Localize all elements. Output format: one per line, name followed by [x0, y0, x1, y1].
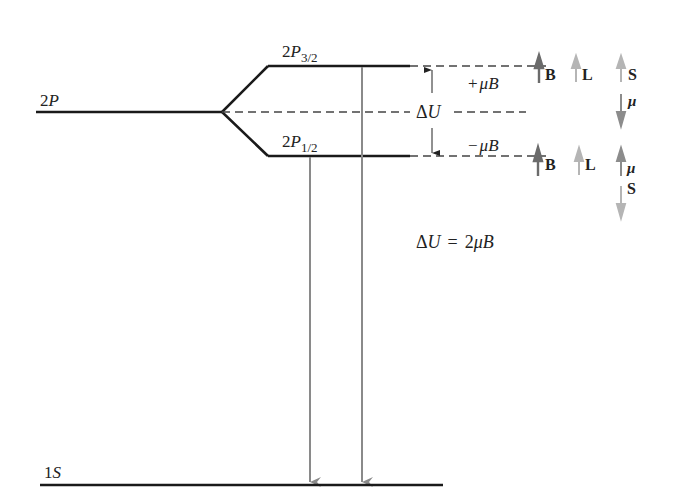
delta-u-label: ΔU [416, 102, 442, 122]
level-2p-label: 2P [40, 91, 59, 110]
vector-l-upper: L [572, 56, 593, 83]
svg-text:L: L [585, 156, 596, 173]
level-2p32: 2P3/2 [268, 42, 410, 66]
level-1s: 1S [40, 463, 443, 485]
svg-text:L: L [582, 66, 593, 83]
plus-mu-b-label: +μB [468, 74, 499, 93]
svg-text:μ: μ [626, 160, 635, 176]
transition-arrows [310, 67, 362, 482]
vector-diagram-upper: B L S μ [535, 55, 637, 126]
delta-u-equation: ΔU=2μB [416, 232, 494, 252]
svg-text:S: S [627, 180, 636, 197]
svg-text:S: S [628, 66, 637, 83]
energy-level-diagram: 2P 2P3/2 2P1/2 ΔU +μB − [0, 0, 680, 498]
svg-text:μ: μ [627, 93, 636, 109]
vector-mu-upper: μ [617, 93, 636, 126]
split-branches [222, 66, 268, 156]
vector-diagram-lower: B L μ S [534, 147, 636, 218]
vector-mu-lower: μ [617, 148, 635, 176]
svg-text:B: B [545, 66, 556, 83]
vector-b-lower: B [534, 147, 556, 176]
level-2p32-label: 2P3/2 [282, 42, 318, 65]
vector-l-lower: L [575, 148, 596, 175]
svg-text:B: B [545, 156, 556, 173]
vector-b-upper: B [535, 55, 556, 83]
level-2p: 2P [36, 91, 222, 112]
minus-mu-b-label: −μB [468, 136, 499, 155]
level-2p12: 2P1/2 [268, 132, 410, 156]
delta-u-arrows: ΔU [413, 70, 453, 153]
vector-s-upper: S [617, 56, 637, 83]
level-2p12-label: 2P1/2 [282, 132, 318, 155]
vector-s-lower: S [617, 180, 636, 218]
level-1s-label: 1S [44, 463, 62, 482]
